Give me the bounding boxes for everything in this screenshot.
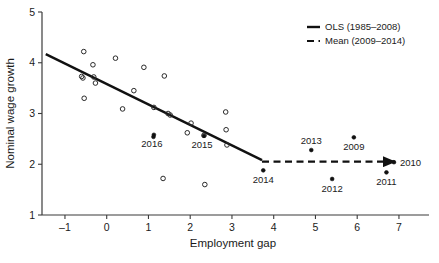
x-tick-label: 4 xyxy=(271,221,277,233)
data-point-open xyxy=(120,107,125,112)
data-point-open xyxy=(185,130,190,135)
x-axis-title: Employment gap xyxy=(190,237,276,249)
data-point-open xyxy=(142,65,147,70)
data-point-open xyxy=(132,88,137,93)
data-point-open xyxy=(203,182,208,187)
year-label: 2011 xyxy=(376,176,396,187)
data-point-open xyxy=(224,127,229,132)
x-tick-label: 5 xyxy=(313,221,319,233)
x-tick-label: 3 xyxy=(229,221,235,233)
y-axis-title: Nominal wage growth xyxy=(4,58,16,169)
x-tick-label: –1 xyxy=(59,221,71,233)
scatter-plot: 12345–101234567 201620152014201320122011… xyxy=(0,0,439,263)
data-point-open xyxy=(81,49,86,54)
year-label: 2009 xyxy=(343,141,364,152)
data-point-filled xyxy=(385,170,389,174)
data-point-open xyxy=(91,62,96,67)
data-points xyxy=(79,49,395,187)
data-point-filled xyxy=(261,168,265,172)
point-labels: 20162015201420132012201120092010 xyxy=(141,135,421,194)
data-point-filled xyxy=(330,177,334,181)
x-tick-label: 6 xyxy=(354,221,360,233)
legend-label: Mean (2009–2014) xyxy=(325,35,405,46)
x-tick-label: 7 xyxy=(396,221,402,233)
data-point-open xyxy=(162,74,167,79)
y-tick-label: 1 xyxy=(29,209,35,221)
data-point-open xyxy=(113,56,118,61)
data-point-open xyxy=(223,110,228,115)
data-point-open xyxy=(161,176,166,181)
x-tick-label: 1 xyxy=(146,221,152,233)
data-point-open xyxy=(93,81,98,86)
year-label: 2015 xyxy=(191,139,212,150)
data-point-filled xyxy=(392,160,396,164)
y-tick-label: 5 xyxy=(29,6,35,18)
chart-legend: OLS (1985–2008)Mean (2009–2014) xyxy=(307,21,405,46)
year-label: 2012 xyxy=(322,183,343,194)
year-label: 2016 xyxy=(141,138,162,149)
x-tick-label: 0 xyxy=(104,221,110,233)
data-point-open xyxy=(82,96,87,101)
y-tick-label: 3 xyxy=(29,107,35,119)
axis-titles: Employment gapNominal wage growth xyxy=(4,58,276,249)
year-label: 2013 xyxy=(301,135,322,146)
data-point-filled xyxy=(202,134,206,138)
chart-container: 12345–101234567 201620152014201320122011… xyxy=(0,0,439,263)
y-tick-label: 4 xyxy=(29,56,35,68)
data-point-filled xyxy=(309,148,313,152)
year-label: 2010 xyxy=(400,157,421,168)
x-tick-label: 2 xyxy=(187,221,193,233)
legend-label: OLS (1985–2008) xyxy=(325,21,401,32)
data-point-filled xyxy=(352,135,356,139)
y-tick-label: 2 xyxy=(29,158,35,170)
year-label: 2014 xyxy=(253,174,274,185)
